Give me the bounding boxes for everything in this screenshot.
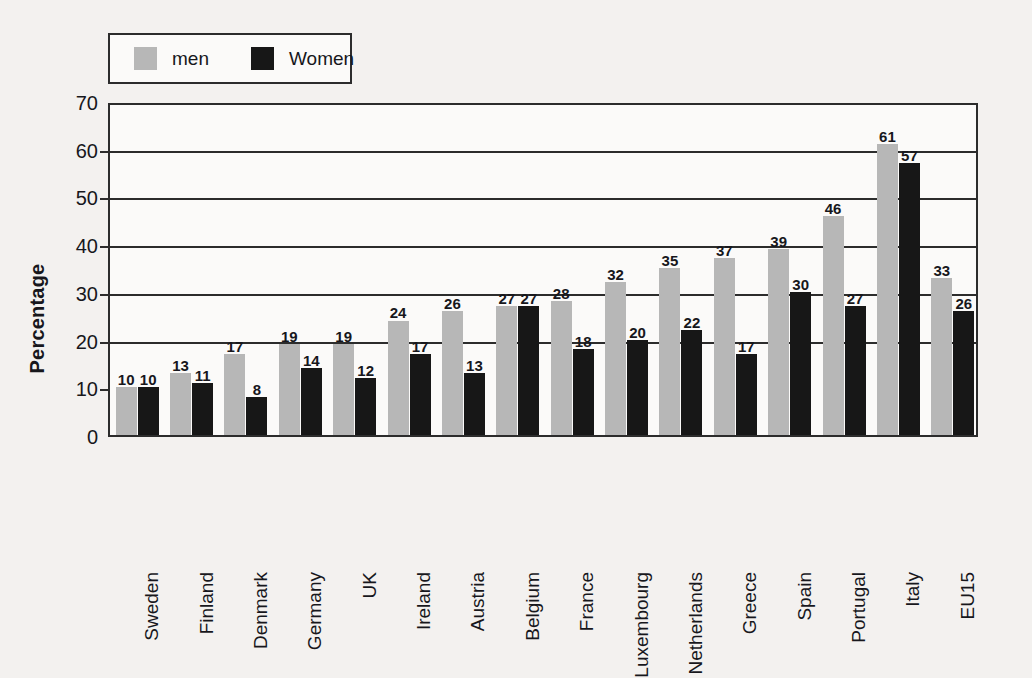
bar-value-eu15-men: 33 <box>926 263 957 278</box>
bar-italy-women[interactable] <box>899 163 920 435</box>
x-tick-label-text: Italy <box>902 572 924 607</box>
x-tick-label-ireland: Ireland <box>398 446 414 576</box>
x-tick-label-denmark: Denmark <box>235 446 251 576</box>
bar-value-ireland-women: 17 <box>405 339 436 354</box>
x-tick-label-netherlands: Netherlands <box>670 446 686 576</box>
bar-portugal-men[interactable] <box>823 216 844 435</box>
bar-value-greece-men: 37 <box>709 243 740 258</box>
bar-value-eu15-women: 26 <box>948 296 979 311</box>
x-tick-label-greece: Greece <box>724 446 740 576</box>
x-tick-label-text: UK <box>359 572 381 598</box>
x-tick-label-text: Ireland <box>413 572 435 630</box>
x-tick-label-text: EU15 <box>957 572 979 620</box>
bar-value-italy-women: 57 <box>894 148 925 163</box>
x-tick-label-text: Sweden <box>141 572 163 641</box>
y-tick-mark-30 <box>100 294 108 296</box>
bar-spain-women[interactable] <box>790 292 811 435</box>
bar-value-netherlands-men: 35 <box>654 253 685 268</box>
bar-austria-women[interactable] <box>464 373 485 435</box>
x-tick-label-text: Denmark <box>250 572 272 649</box>
x-tick-label-text: Portugal <box>848 572 870 643</box>
bar-value-spain-women: 30 <box>785 277 816 292</box>
x-tick-label-text: Spain <box>794 572 816 621</box>
x-tick-label-text: Greece <box>739 572 761 634</box>
bar-value-finland-women: 11 <box>187 368 218 383</box>
bar-belgium-men[interactable] <box>496 306 517 435</box>
bar-value-sweden-women: 10 <box>133 372 164 387</box>
bar-finland-women[interactable] <box>192 383 213 435</box>
y-axis-title-text: Percentage <box>27 263 50 373</box>
bar-denmark-women[interactable] <box>246 397 267 435</box>
bar-value-austria-women: 13 <box>459 358 490 373</box>
y-tick-label-0: 0 <box>54 426 98 449</box>
y-tick-mark-10 <box>100 389 108 391</box>
bar-netherlands-men[interactable] <box>659 268 680 435</box>
x-tick-label-finland: Finland <box>181 446 197 576</box>
bar-netherlands-women[interactable] <box>681 330 702 435</box>
bar-value-ireland-men: 24 <box>383 305 414 320</box>
y-tick-label-60: 60 <box>54 139 98 162</box>
bar-france-women[interactable] <box>573 349 594 435</box>
bar-uk-women[interactable] <box>355 378 376 435</box>
bar-belgium-women[interactable] <box>518 306 539 435</box>
x-tick-label-italy: Italy <box>887 446 903 576</box>
bar-germany-women[interactable] <box>301 368 322 435</box>
bar-ireland-women[interactable] <box>410 354 431 435</box>
y-tick-mark-20 <box>100 342 108 344</box>
x-tick-label-sweden: Sweden <box>126 446 142 576</box>
y-tick-mark-40 <box>100 246 108 248</box>
x-tick-label-portugal: Portugal <box>833 446 849 576</box>
bar-value-austria-men: 26 <box>437 296 468 311</box>
bar-value-uk-women: 12 <box>350 363 381 378</box>
x-tick-label-germany: Germany <box>289 446 305 576</box>
bar-value-netherlands-women: 22 <box>676 315 707 330</box>
x-tick-label-france: France <box>561 446 577 576</box>
x-tick-label-austria: Austria <box>452 446 468 576</box>
y-tick-mark-60 <box>100 151 108 153</box>
bar-value-luxembourg-women: 20 <box>622 325 653 340</box>
x-tick-label-text: Netherlands <box>685 572 707 674</box>
plot-area: 1010131117819141912241726132727281832203… <box>108 103 978 437</box>
bar-luxembourg-women[interactable] <box>627 340 648 435</box>
x-tick-label-text: Belgium <box>522 572 544 641</box>
bar-italy-men[interactable] <box>877 144 898 435</box>
gridline-40 <box>110 246 976 248</box>
x-tick-label-text: Austria <box>467 572 489 631</box>
bar-value-greece-women: 17 <box>731 339 762 354</box>
bar-sweden-women[interactable] <box>138 387 159 435</box>
bar-eu15-women[interactable] <box>953 311 974 435</box>
x-tick-label-luxembourg: Luxembourg <box>616 446 632 576</box>
bar-value-luxembourg-men: 32 <box>600 267 631 282</box>
gridline-60 <box>110 151 976 153</box>
y-axis-title: Percentage <box>12 223 64 413</box>
bar-value-germany-women: 14 <box>296 353 327 368</box>
y-tick-mark-50 <box>100 198 108 200</box>
bar-austria-men[interactable] <box>442 311 463 435</box>
bar-value-belgium-women: 27 <box>513 291 544 306</box>
x-tick-label-text: Luxembourg <box>631 572 653 678</box>
bar-greece-women[interactable] <box>736 354 757 435</box>
bar-value-denmark-women: 8 <box>241 382 272 397</box>
x-tick-label-text: Finland <box>196 572 218 634</box>
bar-value-spain-men: 39 <box>763 234 794 249</box>
x-tick-label-belgium: Belgium <box>507 446 523 576</box>
bar-uk-men[interactable] <box>333 344 354 435</box>
bar-portugal-women[interactable] <box>845 306 866 435</box>
bar-luxembourg-men[interactable] <box>605 282 626 435</box>
x-tick-label-uk: UK <box>344 446 360 576</box>
x-tick-label-eu15: EU15 <box>942 446 958 576</box>
bar-value-portugal-women: 27 <box>840 291 871 306</box>
bar-value-uk-men: 19 <box>328 329 359 344</box>
bar-sweden-men[interactable] <box>116 387 137 435</box>
x-tick-label-spain: Spain <box>779 446 795 576</box>
bar-value-portugal-men: 46 <box>818 201 849 216</box>
bar-ireland-men[interactable] <box>388 321 409 436</box>
bar-value-france-women: 18 <box>568 334 599 349</box>
y-tick-label-70: 70 <box>54 92 98 115</box>
y-tick-label-50: 50 <box>54 187 98 210</box>
bar-value-germany-men: 19 <box>274 329 305 344</box>
bar-value-italy-men: 61 <box>872 129 903 144</box>
bar-value-denmark-men: 17 <box>219 339 250 354</box>
bar-france-men[interactable] <box>551 301 572 435</box>
